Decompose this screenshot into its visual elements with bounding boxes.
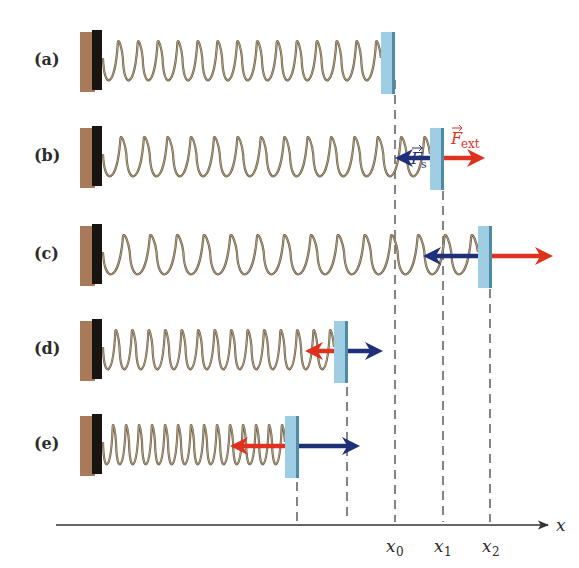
x-axis-label: x [556, 515, 566, 535]
svg-text:s: s [421, 158, 427, 171]
spring-row-d [80, 319, 374, 383]
svg-text:x: x [482, 536, 492, 556]
svg-text:0: 0 [396, 545, 404, 559]
wall-face [92, 30, 102, 90]
spring-force-label: F s [410, 145, 427, 171]
spring-rows [80, 30, 544, 478]
external-force-label: F ext [450, 125, 480, 151]
spring-row-c [80, 224, 544, 288]
svg-text:2: 2 [492, 545, 500, 559]
svg-text:1: 1 [444, 545, 452, 559]
axis-tick-x1: x 1 [434, 536, 452, 559]
svg-text:x: x [386, 536, 396, 556]
wall-face [92, 414, 102, 474]
spring-row-a [80, 30, 395, 94]
wall-face [92, 224, 102, 284]
spring-force-diagram: (a) (b) (c) (d) (e) x x 0 x 1 [0, 0, 579, 568]
spring-row-e [80, 414, 351, 478]
svg-text:ext: ext [461, 137, 480, 151]
axis-tick-x2: x 2 [482, 536, 500, 559]
wall-face [92, 319, 102, 379]
diagram-canvas: x x 0 x 1 x 2 F s F ext [0, 0, 579, 568]
svg-text:x: x [434, 536, 444, 556]
wall-face [92, 126, 102, 186]
axis-tick-x0: x 0 [386, 536, 404, 559]
